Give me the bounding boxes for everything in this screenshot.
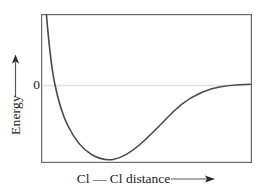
arrow-right-icon (171, 173, 216, 185)
y-axis-label-group: Energy (0, 50, 34, 160)
x-axis-label-group: Cl — Cl distance (41, 168, 252, 190)
energy-vs-distance-figure: Energy 0 Cl — Cl distance (0, 0, 263, 195)
y-axis-zero-tick-label: 0 (27, 77, 40, 93)
plot-svg (41, 14, 252, 163)
y-axis-title: Energy (6, 77, 26, 153)
x-axis-title: Cl — Cl distance (77, 170, 170, 188)
plot-area (41, 14, 252, 163)
plot-frame (42, 15, 252, 163)
